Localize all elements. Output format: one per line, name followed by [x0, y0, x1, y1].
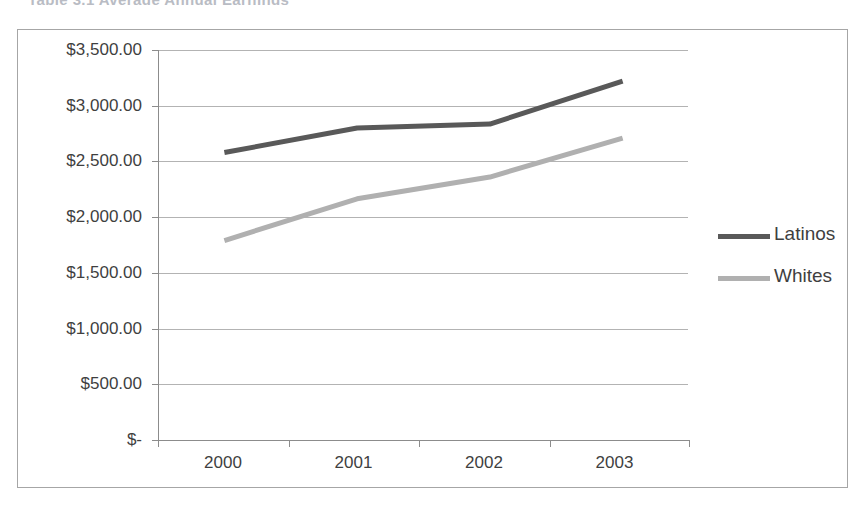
y-axis-label-500: $500.00	[12, 375, 142, 392]
cropped-title-text: Table 3.1 Average Annual Earnings	[28, 0, 448, 5]
chart-screenshot: Table 3.1 Average Annual Earnings	[0, 0, 868, 513]
plot-area: $3,500.00 $3,000.00 $2,500.00 $2,000.00 …	[158, 50, 689, 440]
legend-swatch-latinos	[718, 234, 770, 239]
y-axis-label-2500: $2,500.00	[12, 152, 142, 169]
y-axis-label-2000: $2,000.00	[12, 208, 142, 225]
y-axis-label-3000: $3,000.00	[12, 97, 142, 114]
line-series-latinos	[224, 81, 622, 152]
x-axis-label-2000: 2000	[163, 454, 283, 471]
x-tick-3	[550, 440, 551, 447]
x-tick-4	[689, 440, 690, 447]
x-tick-2	[419, 440, 420, 447]
legend-label-latinos: Latinos	[774, 222, 835, 247]
legend-label-whites: Whites	[774, 264, 832, 289]
y-axis-label-3500: $3,500.00	[12, 41, 142, 58]
x-tick-1	[289, 440, 290, 447]
x-axis-label-2001: 2001	[294, 454, 414, 471]
series-plot	[158, 50, 689, 440]
x-tick-0	[158, 440, 159, 447]
legend-swatch-whites	[718, 276, 770, 281]
x-axis-line	[158, 440, 690, 441]
x-axis-label-2003: 2003	[555, 454, 675, 471]
y-axis-label-0: $-	[12, 431, 142, 448]
chart-frame: $3,500.00 $3,000.00 $2,500.00 $2,000.00 …	[17, 29, 848, 488]
x-axis-label-2002: 2002	[424, 454, 544, 471]
line-series-whites	[224, 138, 622, 241]
y-axis-label-1000: $1,000.00	[12, 320, 142, 337]
y-axis-label-1500: $1,500.00	[12, 264, 142, 281]
